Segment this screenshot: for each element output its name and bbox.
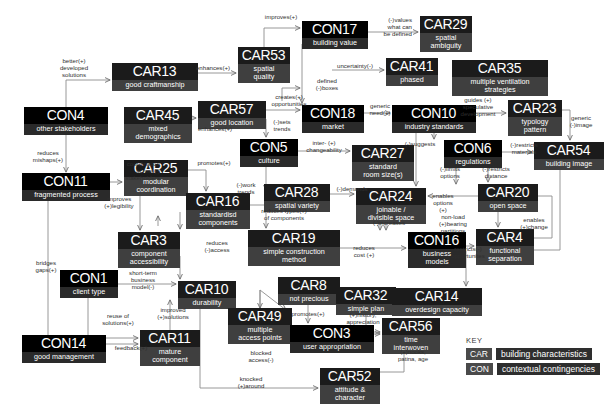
node-con4[interactable]: CON4other stakeholders (24, 107, 108, 135)
edge-label-el-work-trends: (-)work trends (232, 182, 260, 196)
edge-label-el-reduces-mishaps: reduces mishaps(+) (26, 150, 70, 164)
edge-label-el-enhances-car45: enhances(+) (190, 126, 240, 133)
node-description: component accessibility (118, 249, 180, 268)
node-code: CAR23 (508, 100, 562, 117)
node-description: attitude & character (320, 385, 380, 404)
node-code: CAR57 (198, 101, 266, 118)
edge-label-el-improved: improved (+)solutions (150, 307, 196, 321)
node-code: CON11 (22, 173, 110, 190)
node-con1[interactable]: CON1client type (60, 270, 118, 298)
node-code: CON1 (60, 270, 118, 287)
node-code: CAR3 (118, 232, 180, 249)
edge-label-el-generic-need: generic need(+) (364, 103, 396, 117)
node-car10[interactable]: CAR10durability (178, 281, 236, 309)
node-car45[interactable]: CAR45mixed demographics (124, 107, 192, 143)
node-code: CAR52 (320, 368, 380, 385)
node-code: CAR14 (392, 288, 482, 305)
node-description: good management (22, 352, 106, 363)
edge-label-el-feedback: feedback(+) (108, 345, 154, 352)
node-car3[interactable]: CAR3component accessibility (118, 232, 180, 268)
diagram-canvas: CAR13good craftmanshipCAR53spatial quali… (0, 0, 606, 417)
node-car13[interactable]: CAR13good craftmanship (112, 63, 198, 91)
node-code: CAR20 (478, 184, 538, 201)
edge-label-el-nonload: non-load (+)bearing partitions (434, 214, 472, 235)
edge-label-el-restricts-dist: (-)restricts distance (476, 166, 516, 180)
edge-label-el-values: (-)values what can be defined (368, 17, 412, 38)
node-code: CAR8 (278, 277, 340, 294)
node-description: multiple access points (228, 325, 292, 344)
key-legend: KEY CAR building characteristics CON con… (466, 336, 600, 375)
node-car29[interactable]: CAR29spatial ambiguity (420, 16, 472, 52)
node-description: phased (386, 75, 438, 86)
node-con17[interactable]: CON17building value (302, 21, 368, 49)
node-code: CAR56 (382, 318, 440, 335)
edge-label-el-creates: creates(+) opportunities (264, 94, 314, 108)
node-code: CAR29 (420, 16, 472, 33)
node-car20[interactable]: CAR20open space (478, 184, 538, 212)
node-code: CAR54 (534, 142, 604, 159)
edge-label-el-limits: (-)limits options (434, 166, 466, 180)
edge-label-el-history: (+)history, appreciation (340, 312, 386, 326)
key-text-con: contextual contingencies (497, 363, 600, 375)
node-description: building value (302, 38, 368, 49)
node-car53[interactable]: CAR53spatial quality (238, 47, 290, 83)
node-car52[interactable]: CAR52attitude & character (320, 368, 380, 404)
node-description: simple construction method (248, 247, 340, 266)
edge-label-el-inter: inter- (+) changeability (300, 140, 348, 154)
node-code: CAR35 (452, 60, 548, 77)
node-con14[interactable]: CON14good management (22, 335, 106, 363)
node-con3[interactable]: CON3user appropriation (290, 325, 374, 353)
edge-label-el-improves-leg: improves (+)legibility (96, 196, 142, 210)
key-tag-car: CAR (466, 348, 492, 360)
node-car16[interactable]: CAR16standardisd components (186, 193, 250, 229)
node-description: culture (240, 156, 298, 167)
edge-label-el-nooks: (+)nooks, patina, age (392, 349, 434, 363)
edge-label-el-demands: (-)demands (330, 186, 374, 193)
edge-label-el-suggests: (-)suggests (398, 141, 442, 148)
node-car41[interactable]: CAR41phased (386, 58, 438, 86)
node-description: standardisd components (186, 210, 250, 229)
key-text-car: building characteristics (496, 348, 592, 360)
edge-label-el-bridges: bridges gaps(+) (30, 260, 62, 274)
node-car27[interactable]: CAR27standard room size(s) (352, 145, 414, 181)
node-car54[interactable]: CAR54building image (534, 142, 604, 170)
node-car14[interactable]: CAR14overdesign capacity (392, 288, 482, 316)
edge-label-el-promotes-car25: promotes(+) (190, 160, 238, 167)
edge-label-el-reduces-access: reduces (-)access (200, 240, 234, 254)
key-row-car: CAR building characteristics (466, 348, 600, 360)
node-con18[interactable]: CON18market (302, 105, 364, 133)
node-description: typology pattern (508, 117, 562, 136)
node-car19[interactable]: CAR19simple construction method (248, 230, 340, 266)
node-description: industry standards (392, 122, 476, 133)
node-con5[interactable]: CON5culture (240, 139, 298, 167)
node-code: CAR53 (238, 47, 290, 64)
node-code: CAR28 (264, 184, 330, 201)
node-code: CON3 (290, 325, 374, 342)
node-description: not precious (278, 294, 340, 305)
node-con6[interactable]: CON6regulations (444, 140, 502, 168)
node-car49[interactable]: CAR49multiple access points (228, 308, 292, 344)
edge-label-el-enhances-car13: enhances(+) (188, 65, 238, 72)
node-code: CAR49 (228, 308, 292, 325)
node-description: overdesign capacity (392, 305, 482, 316)
node-description: spatial quality (238, 64, 290, 83)
key-title: KEY (466, 336, 600, 345)
node-code: CAR32 (336, 287, 396, 304)
node-code: CAR4 (476, 229, 534, 246)
edge-label-el-uncertainty: uncertainty(-) (328, 63, 382, 70)
node-code: CAR10 (178, 281, 236, 298)
node-description: mixed demographics (124, 124, 192, 143)
node-code: CON14 (22, 335, 106, 352)
edge-label-el-guides: guides (+) speculative development (452, 97, 504, 118)
node-description: client type (60, 287, 118, 298)
node-car23[interactable]: CAR23typology pattern (508, 100, 562, 136)
edge-label-el-better: better(+) developed solutions (46, 58, 102, 79)
edge-label-el-defined: defined (-)boxes (310, 78, 344, 92)
node-car35[interactable]: CAR35multiple ventilation strategies (452, 60, 548, 96)
node-code: CAR13 (112, 63, 198, 80)
key-row-con: CON contextual contingencies (466, 363, 600, 375)
edge-label-el-restricts-mat: (-)restricts materials (504, 142, 544, 156)
node-car8[interactable]: CAR8not precious (278, 277, 340, 305)
node-code: CAR41 (386, 58, 438, 75)
edge-label-el-knocked: knocked (+)around (232, 376, 270, 390)
